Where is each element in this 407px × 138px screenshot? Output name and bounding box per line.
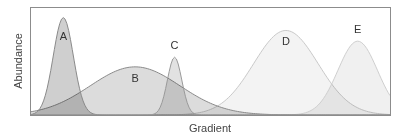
curve-label-d: D <box>282 35 290 47</box>
curve-label-a: A <box>60 30 68 42</box>
curve-label-e: E <box>354 23 361 35</box>
curve-label-b: B <box>131 72 138 84</box>
x-axis-label: Gradient <box>189 122 231 134</box>
curve-group <box>31 18 390 115</box>
species-abundance-chart: ABCDE Gradient Abundance <box>0 0 407 138</box>
curve-label-c: C <box>171 39 179 51</box>
y-axis-label: Abundance <box>12 33 24 89</box>
